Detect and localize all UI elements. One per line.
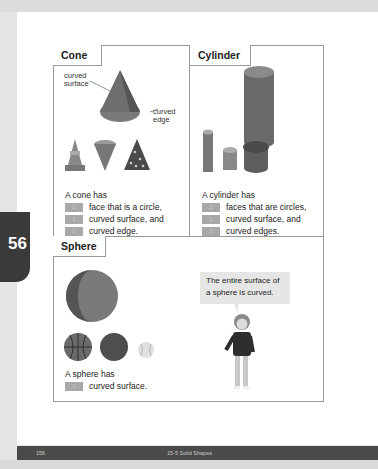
answer-slot[interactable]: 1	[65, 203, 83, 212]
sphere-illustration	[64, 268, 120, 324]
girl-character-icon	[220, 304, 270, 396]
cone-item-1: 1face that is a circle,	[65, 201, 162, 214]
cone-examples-icon	[63, 137, 183, 177]
sphere-item-1: 1curved surface.	[65, 380, 147, 393]
top-band	[0, 0, 378, 12]
answer-slot[interactable]: 1	[65, 215, 83, 224]
cone-illustration	[80, 64, 160, 129]
cylinder-title: Cylinder	[190, 45, 251, 66]
page-number: 156	[36, 450, 45, 456]
answer-slot[interactable]: 2	[202, 227, 220, 236]
cylinder-examples-icon	[200, 128, 270, 176]
sphere-intro: A sphere has	[65, 368, 115, 381]
sphere-title: Sphere	[53, 236, 106, 257]
cone-item-2: 1curved surface, and	[65, 213, 164, 226]
cone-title: Cone	[53, 45, 102, 66]
sphere-examples-icon	[64, 332, 160, 362]
answer-slot[interactable]: 1	[65, 382, 83, 391]
bottom-band	[0, 460, 378, 469]
cylinder-item-1: 2faces that are circles,	[202, 201, 306, 214]
side-tab-number: 56	[8, 234, 27, 254]
answer-slot[interactable]: 1	[202, 215, 220, 224]
cylinder-item-3: 2curved edges.	[202, 225, 279, 238]
speech-bubble: The entire surface of a sphere is curved…	[200, 272, 290, 304]
answer-slot[interactable]: 1	[65, 227, 83, 236]
chapter-title: 15-5 Solid Shapes	[167, 450, 212, 456]
side-page-tab: 56	[0, 212, 30, 282]
cylinder-item-2: 1curved surface, and	[202, 213, 301, 226]
answer-slot[interactable]: 2	[202, 203, 220, 212]
cone-intro: A cone has	[65, 189, 107, 202]
cylinder-intro: A cylinder has	[202, 189, 255, 202]
vertical-divider	[189, 45, 190, 236]
page-footer: 156 15-5 Solid Shapes	[17, 446, 378, 460]
